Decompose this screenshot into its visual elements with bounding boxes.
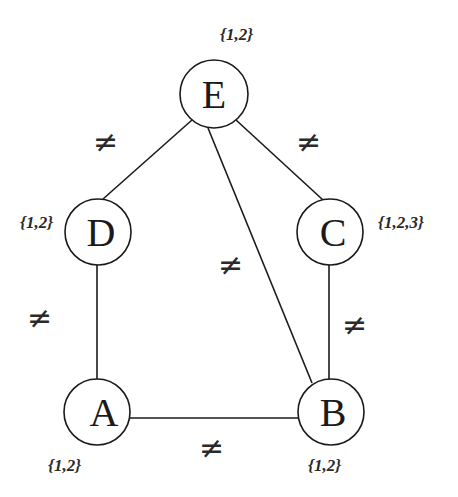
domain-e: {1,2} xyxy=(220,25,253,44)
domain-a: {1,2} xyxy=(48,456,81,475)
domain-c: {1,2,3} xyxy=(378,213,424,232)
node-b: B xyxy=(298,379,364,445)
constraint-a-b: ≠ xyxy=(199,430,224,465)
domain-b: {1,2} xyxy=(308,456,341,475)
edges xyxy=(97,120,329,418)
constraint-graph: ≠ ≠ ≠ ≠ ≠ ≠ E D C A B {1,2} {1,2} {1,2,3… xyxy=(0,0,458,497)
constraint-e-d: ≠ xyxy=(93,124,118,159)
constraint-d-a: ≠ xyxy=(27,300,52,335)
node-a: A xyxy=(64,379,130,445)
constraint-c-b: ≠ xyxy=(342,307,367,342)
node-e: E xyxy=(180,60,248,128)
node-d-label: D xyxy=(87,210,116,255)
node-d: D xyxy=(65,199,131,265)
node-e-label: E xyxy=(202,72,226,117)
node-c: C xyxy=(297,199,363,265)
node-a-label: A xyxy=(90,390,119,435)
constraint-e-c: ≠ xyxy=(296,124,321,159)
constraint-e-b: ≠ xyxy=(218,247,243,282)
node-b-label: B xyxy=(320,390,347,435)
node-c-label: C xyxy=(320,210,347,255)
domain-d: {1,2} xyxy=(20,213,53,232)
